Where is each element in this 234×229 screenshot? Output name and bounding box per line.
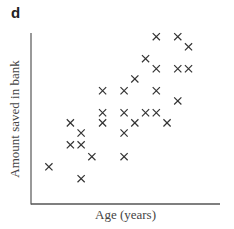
x-marker	[120, 109, 127, 116]
x-marker	[153, 109, 160, 116]
x-marker	[174, 65, 181, 72]
x-marker	[174, 97, 181, 104]
x-marker	[142, 109, 149, 116]
x-marker	[153, 33, 160, 40]
x-marker	[78, 129, 85, 136]
x-marker	[45, 163, 52, 170]
x-marker	[185, 65, 192, 72]
scatter-plot	[0, 0, 234, 229]
x-marker	[163, 119, 170, 126]
x-marker	[131, 75, 138, 82]
x-marker	[99, 119, 106, 126]
data-points	[45, 33, 192, 182]
x-marker	[153, 65, 160, 72]
x-marker	[120, 87, 127, 94]
x-marker	[78, 175, 85, 182]
x-marker	[174, 33, 181, 40]
x-marker	[142, 55, 149, 62]
x-marker	[99, 87, 106, 94]
x-axis-label: Age (years)	[31, 207, 220, 223]
x-marker	[120, 153, 127, 160]
x-marker	[131, 119, 138, 126]
x-marker	[120, 129, 127, 136]
x-marker	[88, 153, 95, 160]
x-marker	[78, 141, 85, 148]
x-marker	[153, 87, 160, 94]
x-marker	[67, 141, 74, 148]
x-marker	[99, 109, 106, 116]
x-marker	[185, 43, 192, 50]
x-marker	[67, 119, 74, 126]
